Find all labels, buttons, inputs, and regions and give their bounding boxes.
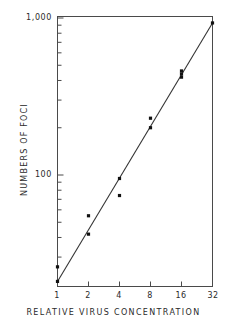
data-point (56, 280, 59, 283)
data-point (87, 214, 90, 217)
plot-canvas (0, 0, 227, 332)
chart-figure: 1,000 100 1 2 4 8 16 32 RELATIVE VIRUS C… (0, 0, 227, 332)
data-point (118, 177, 121, 180)
data-point (149, 117, 152, 120)
data-point (118, 194, 121, 197)
data-point (87, 233, 90, 236)
regression-line (58, 23, 213, 281)
data-point (180, 76, 183, 79)
data-point (180, 72, 183, 75)
x-axis-ticks (58, 282, 213, 287)
y-axis-minor-ticks (58, 25, 62, 257)
data-point (180, 69, 183, 72)
y-axis-major-ticks (58, 18, 64, 175)
data-point (149, 126, 152, 129)
data-point (211, 21, 214, 24)
data-point (56, 265, 59, 268)
